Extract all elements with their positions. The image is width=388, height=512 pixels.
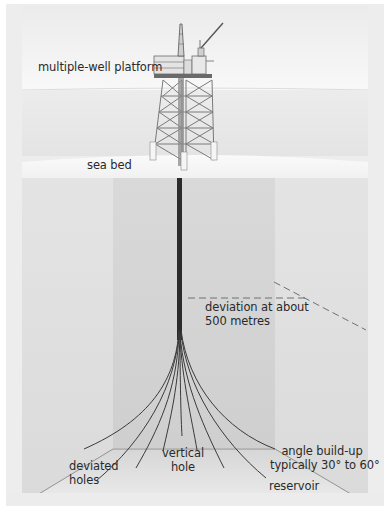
offshore-drilling-diagram (0, 0, 388, 512)
label-deviation-line1: deviation at about (205, 300, 309, 314)
label-vertical-hole: vertical hole (158, 446, 208, 474)
sea-bed-surface (22, 155, 368, 178)
label-angle-line1: angle build-up (270, 444, 374, 458)
label-vertical-line1: vertical (158, 446, 208, 460)
label-deviation-line2: 500 metres (205, 314, 309, 328)
label-angle-build-up: angle build-up typically 30° to 60° (270, 444, 374, 472)
leg-foot-right (211, 142, 217, 160)
label-deviation: deviation at about 500 metres (205, 300, 309, 328)
bottom-strip (6, 493, 384, 506)
wellbore-shaft (177, 178, 182, 340)
leg-foot-center (181, 152, 187, 170)
label-deviated-line2: holes (69, 473, 119, 487)
leg-foot-left (150, 142, 156, 160)
label-vertical-line2: hole (158, 460, 208, 474)
label-deviated-holes: deviated holes (69, 459, 119, 487)
label-angle-line2: typically 30° to 60° (270, 458, 374, 472)
label-deviated-line1: deviated (69, 459, 119, 473)
label-sea-bed: sea bed (87, 158, 132, 172)
label-platform: multiple-well platform (38, 60, 162, 74)
label-reservoir: reservoir (269, 479, 319, 493)
